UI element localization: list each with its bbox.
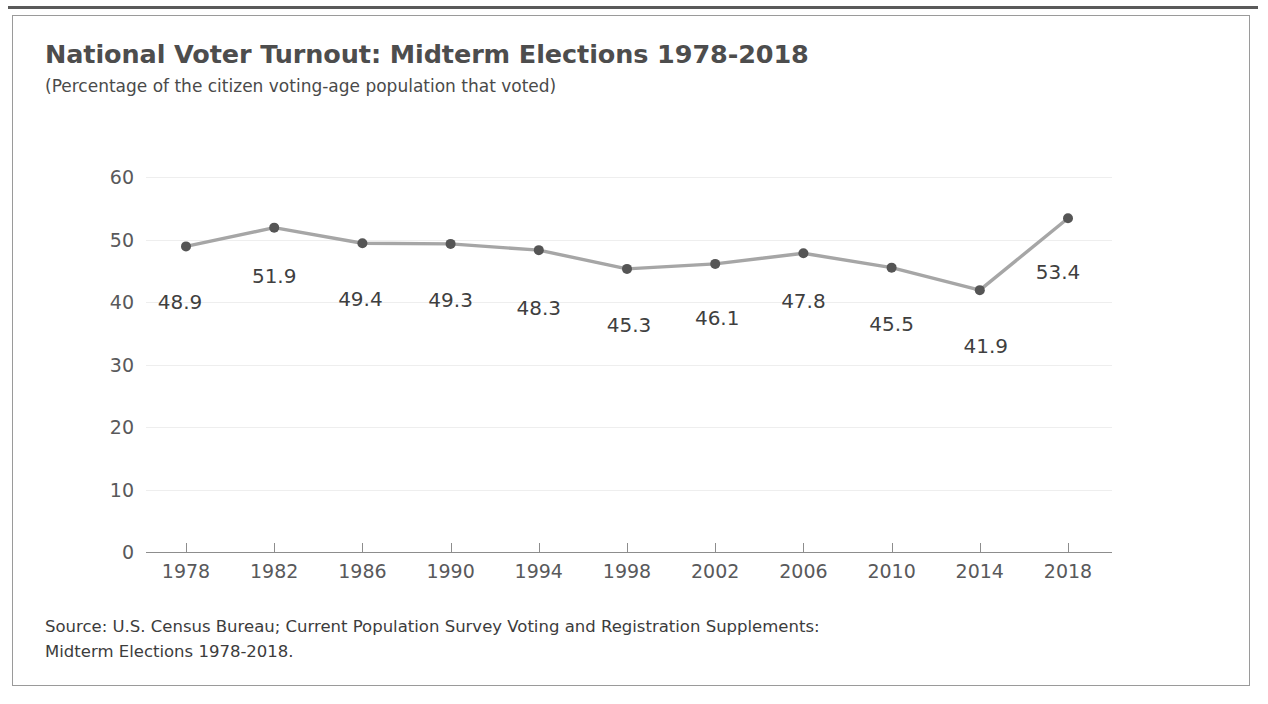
- source-note-line-1: Source: U.S. Census Bureau; Current Popu…: [45, 614, 1145, 639]
- page-title: National Voter Turnout: Midterm Election…: [45, 39, 809, 69]
- page-top-rule: [8, 6, 1258, 9]
- source-note-line-2: Midterm Elections 1978-2018.: [45, 639, 1145, 664]
- source-note: Source: U.S. Census Bureau; Current Popu…: [45, 614, 1145, 664]
- chart-subtitle: (Percentage of the citizen voting-age po…: [45, 76, 556, 96]
- figure-container: [12, 15, 1250, 686]
